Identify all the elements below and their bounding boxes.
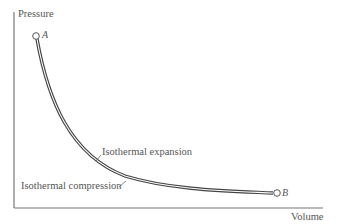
isothermal-expansion-label: Isothermal expansion	[102, 146, 192, 157]
isotherm-curve-inner	[37, 39, 273, 193]
y-axis-label: Pressure	[18, 8, 54, 19]
point-a-label: A	[42, 29, 48, 40]
isothermal-compression-label: Isothermal compression	[21, 180, 122, 191]
x-axis-label: Volume	[291, 211, 323, 222]
point-b-label: B	[282, 187, 288, 198]
point-b-marker	[274, 190, 281, 197]
isotherm-curve-outer	[37, 39, 273, 193]
point-a-marker	[33, 33, 40, 40]
